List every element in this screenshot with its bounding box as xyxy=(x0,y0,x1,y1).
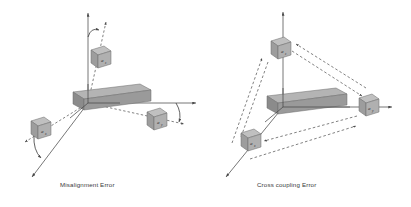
accelerometer-error-diagram: a z a y a x Misalignment Error xyxy=(0,0,411,207)
caption-crosscoupling: Cross coupling Error xyxy=(257,181,316,188)
axis-x-true xyxy=(32,103,88,177)
arc-theta-y xyxy=(176,103,180,122)
sensor-az-right: a z xyxy=(271,37,291,59)
coupling-ay-to-az xyxy=(296,44,366,88)
sensor-ax-left: a x xyxy=(31,117,51,139)
coupling-ay-to-ax xyxy=(264,116,357,141)
panel-crosscoupling: a z a y a x Cross coupling Error xyxy=(226,12,392,188)
coupling-ax-to-ay xyxy=(250,126,356,159)
sensor-az-left: a z xyxy=(91,46,111,68)
panel-misalignment: a z a y a x Misalignment Error xyxy=(25,13,196,188)
arc-theta-z xyxy=(88,29,99,37)
sensor-ay-left: a y xyxy=(147,108,167,130)
coupling-ax-to-az xyxy=(232,58,262,143)
caption-misalignment: Misalignment Error xyxy=(60,181,115,188)
sensor-ax-right: a x xyxy=(241,129,261,151)
coupling-az-to-ax xyxy=(241,62,268,137)
sensor-ay-right: a y xyxy=(359,94,379,116)
